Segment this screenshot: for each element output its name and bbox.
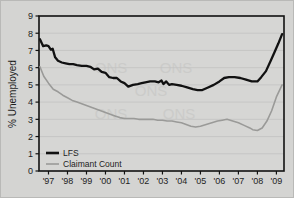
x-axis-tick-label: '00	[100, 176, 112, 186]
x-axis-tick-label: '01	[119, 176, 131, 186]
y-axis-tick-label: 0	[28, 166, 33, 176]
y-axis-tick-label: 7	[28, 46, 33, 56]
x-axis-tick-label: '06	[214, 176, 226, 186]
unemployment-line-chart: ONSONSONSONSONS 0123456789 '97'98'99'00'…	[1, 1, 294, 198]
y-axis-tick-label: 8	[28, 29, 33, 39]
y-axis-title-text: % Unemployed	[7, 60, 18, 128]
x-axis-tick-label: '02	[138, 176, 150, 186]
x-axis-tick-label: '07	[233, 176, 245, 186]
x-axis-tick-label: '98	[62, 176, 74, 186]
chart-figure: ONSONSONSONSONS 0123456789 '97'98'99'00'…	[0, 0, 294, 198]
y-axis-tick-label: 3	[28, 115, 33, 125]
legend-label: LFS	[63, 148, 79, 158]
x-axis-tick-label: '08	[252, 176, 264, 186]
y-axis-tick-label: 2	[28, 132, 33, 142]
chart-background	[1, 1, 294, 198]
x-axis-tick-label: '99	[81, 176, 93, 186]
y-axis-tick-label: 9	[28, 11, 33, 21]
x-axis-tick-label: '09	[271, 176, 283, 186]
x-axis-tick-label: '03	[157, 176, 169, 186]
y-axis-tick-label: 4	[28, 97, 33, 107]
x-axis-tick-label: '05	[195, 176, 207, 186]
legend-label: Claimant Count	[63, 159, 122, 169]
y-axis-title: % Unemployed	[7, 60, 18, 128]
y-axis-tick-label: 6	[28, 63, 33, 73]
x-axis-tick-label: '97	[43, 176, 55, 186]
x-axis-tick-label: '04	[176, 176, 188, 186]
y-axis-tick-label: 5	[28, 80, 33, 90]
y-axis-tick-label: 1	[28, 149, 33, 159]
